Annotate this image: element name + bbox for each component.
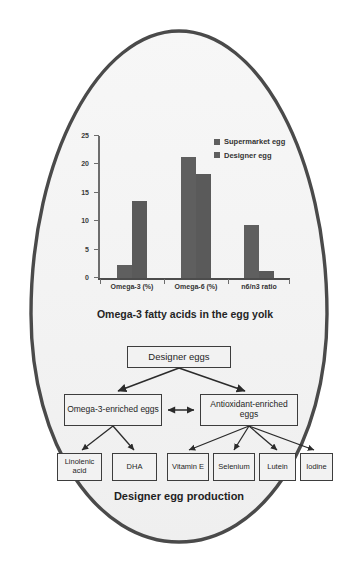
bar-supermarket-omega6 [181, 157, 196, 279]
flow-node-designer-eggs[interactable]: Designer eggs [127, 346, 231, 368]
y-tick-label-5: 5 [85, 245, 89, 252]
flow-node-dha[interactable]: DHA [112, 453, 157, 481]
y-tick-label-10: 10 [81, 217, 89, 224]
bar-designer-omega3 [132, 201, 147, 278]
y-tick-25: 25 [94, 135, 99, 136]
y-tick-label-0: 0 [85, 274, 89, 281]
flow-node-label: Antioxidant-enriched eggs [201, 400, 297, 420]
y-tick-label-25: 25 [81, 132, 89, 139]
chart-legend: Supermarket egg Designer egg [214, 138, 285, 159]
flow-node-label: Vitamin E [172, 463, 204, 472]
flow-node-iodine[interactable]: Iodine [300, 453, 333, 481]
legend-item-designer-egg: Designer egg [214, 152, 285, 160]
y-tick-15: 15 [94, 192, 99, 193]
y-tick-5: 5 [94, 249, 99, 250]
x-category-label-0: Omega-3 (%) [111, 283, 154, 290]
flow-node-antioxidant-enriched-eggs[interactable]: Antioxidant-enriched eggs [200, 394, 298, 426]
bar-designer-omega6 [196, 174, 211, 278]
x-axis-line [98, 278, 290, 280]
figure-canvas: 0 5 10 15 20 25 [0, 0, 359, 581]
bar-group-omega3: Omega-3 (%) [100, 136, 164, 278]
bar-supermarket-omega3 [117, 265, 132, 278]
x-category-label-2: n6/n3 ratio [241, 283, 276, 290]
chart-title: Omega-3 fatty acids in the egg yolk [74, 308, 296, 320]
x-tick-2 [228, 279, 229, 284]
flow-node-label: Omega-3-enriched eggs [67, 405, 159, 415]
x-category-label-1: Omega-6 (%) [175, 283, 218, 290]
flow-node-omega3-enriched-eggs[interactable]: Omega-3-enriched eggs [64, 394, 162, 426]
flow-node-selenium[interactable]: Selenium [213, 453, 255, 481]
flow-node-label: DHA [127, 463, 143, 472]
bar-supermarket-ratio [244, 225, 259, 278]
bar-chart: 0 5 10 15 20 25 [74, 132, 296, 324]
legend-label-designer: Designer egg [224, 152, 272, 160]
legend-swatch-icon-designer [214, 152, 220, 158]
flow-node-vitamin-e[interactable]: Vitamin E [167, 453, 209, 481]
legend-item-supermarket-egg: Supermarket egg [214, 138, 285, 146]
x-tick-3 [289, 279, 290, 284]
y-tick-label-20: 20 [81, 160, 89, 167]
y-tick-10: 10 [94, 220, 99, 221]
bar-designer-ratio [259, 271, 274, 278]
flow-node-lutein[interactable]: Lutein [259, 453, 296, 481]
flow-node-label: Linolenic acid [58, 458, 101, 475]
flow-node-label: Iodine [306, 463, 326, 472]
flow-node-label: Selenium [218, 463, 249, 472]
y-tick-20: 20 [94, 163, 99, 164]
y-tick-0: 0 [94, 277, 99, 278]
x-tick-1 [164, 279, 165, 284]
flow-node-label: Designer eggs [148, 352, 209, 363]
x-tick-0 [100, 279, 101, 284]
legend-label-supermarket: Supermarket egg [224, 138, 285, 146]
flowchart: Designer eggs Omega-3-enriched eggs Anti… [26, 340, 332, 510]
flow-node-label: Lutein [267, 463, 287, 472]
flowchart-caption: Designer egg production [26, 490, 332, 502]
legend-swatch-icon-supermarket [214, 139, 220, 145]
y-tick-label-15: 15 [81, 188, 89, 195]
flow-node-linolenic-acid[interactable]: Linolenic acid [57, 453, 102, 481]
